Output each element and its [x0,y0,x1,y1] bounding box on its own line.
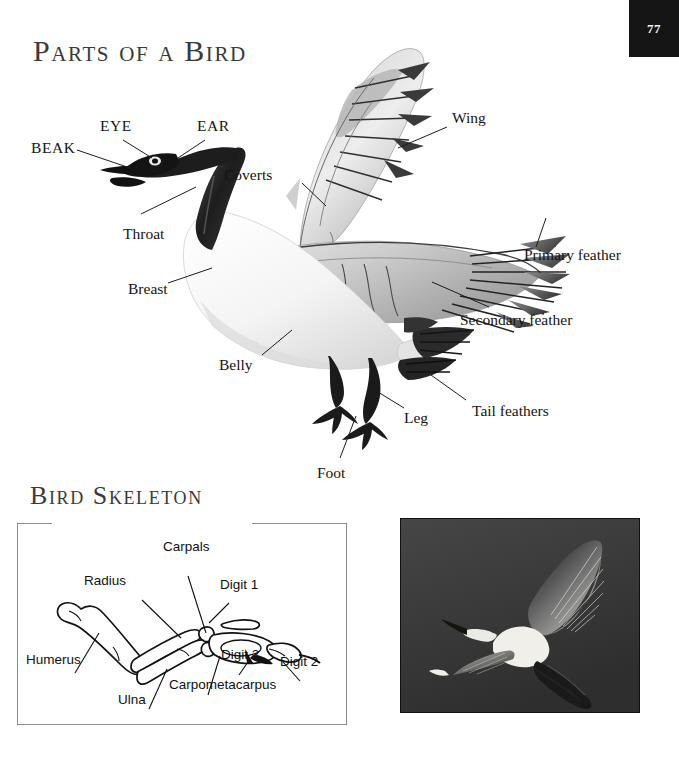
label-belly: Belly [219,357,253,373]
label-humerus: Humerus [26,653,81,667]
label-leg: Leg [404,410,428,426]
label-carpals: Carpals [163,540,210,554]
label-tail-feathers: Tail feathers [472,403,549,419]
label-primary-feather: Primary feather [524,247,621,263]
label-beak: BEAK [31,140,76,156]
label-coverts: Coverts [224,167,272,183]
label-digit-1: Digit 1 [220,578,258,592]
label-digit-3: Digit 3 [221,648,259,662]
label-ear: EAR [197,118,230,134]
egret-in-flight-photo [400,518,640,713]
page-canvas: 77 Parts of a Bird [0,0,679,758]
label-ulna: Ulna [118,693,146,707]
label-wing: Wing [452,110,486,126]
label-breast: Breast [128,281,168,297]
label-throat: Throat [123,226,164,242]
page-title-bird-skeleton: Bird Skeleton [30,481,203,511]
label-carpometacarpus: Carpometacarpus [169,678,276,692]
label-eye: EYE [100,118,132,134]
label-digit-2: Digit 2 [280,655,318,669]
label-radius: Radius [84,574,126,588]
label-secondary-feather: Secondary feather [460,312,572,328]
label-foot: Foot [317,465,345,481]
